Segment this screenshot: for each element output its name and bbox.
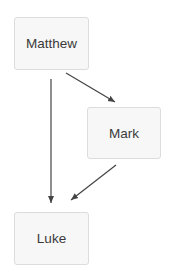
edge-mark-luke <box>71 165 116 200</box>
node-mark[interactable]: Mark <box>87 107 161 159</box>
node-matthew[interactable]: Matthew <box>14 17 89 70</box>
node-label: Mark <box>109 126 139 141</box>
node-label: Matthew <box>26 36 77 51</box>
edge-matthew-mark <box>66 73 115 102</box>
node-label: Luke <box>37 231 66 246</box>
node-luke[interactable]: Luke <box>14 212 89 265</box>
